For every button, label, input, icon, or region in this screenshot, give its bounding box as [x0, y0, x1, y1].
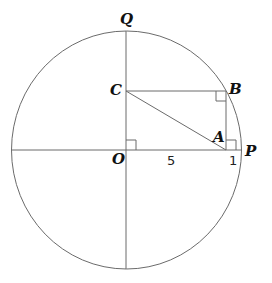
right-angle-mark-B	[216, 91, 226, 101]
right-angle-mark-O	[126, 140, 136, 150]
label-OA-length: 5	[167, 153, 175, 168]
label-Q: Q	[120, 10, 133, 28]
right-angle-mark-A	[226, 140, 236, 150]
segment-CA	[126, 91, 226, 150]
label-O: O	[112, 150, 125, 168]
geometry-diagram: Q C B A O P 5 1	[0, 0, 272, 283]
label-A: A	[211, 128, 225, 146]
label-C: C	[110, 81, 122, 99]
label-B: B	[228, 80, 242, 98]
label-AP-length: 1	[229, 153, 237, 168]
label-P: P	[244, 142, 257, 160]
